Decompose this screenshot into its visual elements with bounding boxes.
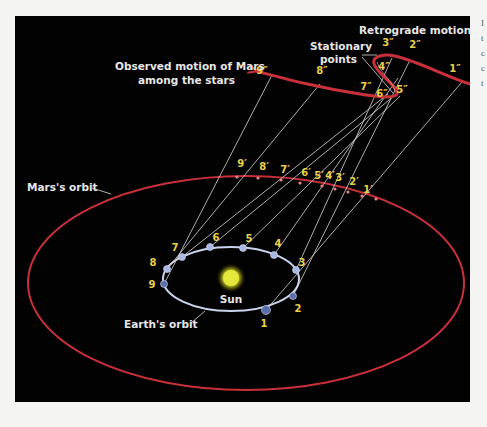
- sky-position-label-1: 1″: [449, 63, 461, 74]
- observed-motion-label-1: Observed motion of Mars: [115, 60, 265, 72]
- mars-position-marker-8: [256, 176, 259, 179]
- earth-position-9: [161, 281, 168, 288]
- earth-position-label-8: 8: [150, 257, 157, 268]
- earth-position-label-4: 4: [275, 238, 282, 249]
- sky-position-label-7: 7″: [360, 81, 372, 92]
- earth-position-label-3: 3: [299, 257, 306, 268]
- earth-position-2: [290, 293, 297, 300]
- observed-motion-label-2: among the stars: [138, 74, 235, 86]
- mars-position-label-7: 7′: [280, 164, 290, 175]
- mars-orbit: [28, 176, 464, 390]
- mars-position-marker-6: [298, 181, 301, 184]
- stationary-points-label-1: Stationary: [310, 40, 372, 52]
- earth-position-6: [207, 244, 214, 251]
- page-text-fragment: I: [481, 18, 484, 28]
- sight-line-9: [164, 75, 272, 284]
- mars-position-label-3: 3′: [335, 172, 345, 183]
- sight-line-8: [167, 84, 320, 269]
- sun-icon: [223, 270, 239, 286]
- earth-position-label-1: 1: [261, 318, 268, 329]
- mars-position-marker-7: [279, 178, 282, 181]
- earth-position-label-2: 2: [295, 303, 302, 314]
- sight-lines: [164, 58, 462, 310]
- mars-position-marker-1: [374, 197, 377, 200]
- mars-position-marker-3: [346, 190, 349, 193]
- mars-position-label-8: 8′: [259, 161, 269, 172]
- mars-position-label-4: 4′: [325, 170, 335, 181]
- retrograde-motion-label: Retrograde motion: [359, 24, 471, 36]
- earth-position-5: [240, 245, 247, 252]
- earth-position-label-5: 5: [246, 233, 253, 244]
- page-text-fragment: c: [481, 48, 485, 58]
- mars-orbit-label: Mars's orbit: [27, 181, 98, 193]
- earth-position-label-7: 7: [172, 242, 179, 253]
- sky-position-label-8: 8″: [316, 65, 328, 76]
- stationary-points-label-2: points: [320, 53, 357, 65]
- earth-position-label-9: 9: [149, 279, 156, 290]
- sky-position-label-2: 2″: [409, 39, 421, 50]
- mars-position-label-9: 9′: [237, 158, 247, 169]
- retrograde-motion-diagram: 1234567891′2′3′4′5′6′7′8′9′1″2″3″4″5″6″7…: [0, 0, 487, 427]
- mars-position-marker-5: [320, 184, 323, 187]
- earth-position-4: [271, 252, 278, 259]
- earth-position-1: [262, 306, 271, 315]
- earth-position-7: [179, 254, 186, 261]
- page-text-fragment: c: [481, 63, 485, 73]
- sun-label: Sun: [220, 293, 243, 305]
- mars-position-marker-4: [333, 187, 336, 190]
- mars-position-label-5: 5′: [314, 170, 324, 181]
- earth-orbit-pointer: [191, 311, 205, 323]
- sight-line-1: [266, 82, 462, 310]
- page-text-fragment: t: [481, 78, 484, 88]
- earth-position-8: [164, 266, 171, 273]
- sky-position-label-4: 4″: [378, 61, 390, 72]
- earth-position-label-6: 6: [213, 232, 220, 243]
- sky-position-label-6: 6″: [376, 88, 388, 99]
- mars-position-label-1: 1′: [363, 184, 373, 195]
- mars-position-label-2: 2′: [349, 176, 359, 187]
- page-text-fragment: t: [481, 33, 484, 43]
- sky-position-label-3: 3″: [382, 37, 394, 48]
- mars-position-label-6: 6′: [301, 167, 311, 178]
- earth-orbit-label: Earth's orbit: [124, 318, 198, 330]
- sky-position-label-5: 5″: [396, 84, 408, 95]
- mars-position-marker-9: [235, 175, 238, 178]
